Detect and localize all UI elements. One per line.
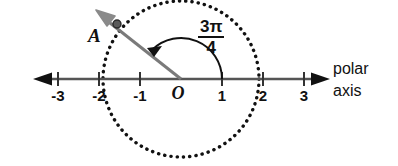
- polar-axis-caption-line2: axis: [333, 81, 361, 100]
- axis-tick-label-2: 2: [251, 88, 275, 104]
- point-a-marker: [113, 20, 121, 28]
- origin-label: O: [166, 84, 190, 102]
- axis-tick-label-1: 1: [210, 88, 234, 104]
- axis-tick-label-3: 3: [292, 88, 316, 104]
- axis-tick-label--1: -1: [128, 88, 152, 104]
- point-a-label: A: [88, 26, 101, 45]
- angle-denominator: 4: [198, 38, 224, 56]
- axis-arrow-right-icon: [311, 73, 330, 86]
- angle-measure-label: 3π 4: [198, 18, 224, 56]
- axis-tick-label--2: -2: [87, 88, 111, 104]
- polar-diagram: -3 -2 -1 1 2 3 O A 3π 4 polar axis: [0, 0, 398, 166]
- axis-arrow-left-icon: [33, 73, 52, 86]
- angle-numerator: 3π: [198, 18, 224, 36]
- axis-tick-label--3: -3: [46, 88, 70, 104]
- polar-axis-caption-line1: polar: [333, 59, 369, 78]
